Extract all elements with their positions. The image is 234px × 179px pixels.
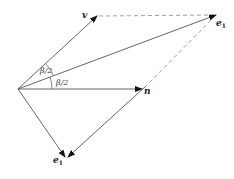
vector-e1-upper: [18, 15, 216, 89]
label-e1-upper: e1: [216, 18, 226, 29]
label-angle-lower: β/2: [55, 78, 68, 87]
angle-arc-lower: [50, 77, 52, 89]
vector-e1-lower: [18, 89, 65, 157]
label-n: n: [144, 86, 151, 96]
label-v: v: [82, 10, 88, 20]
label-e1-lower: e1: [53, 155, 63, 166]
dashed-line-e1-to-n: [146, 15, 216, 86]
connector-to-e1-lower: [68, 86, 146, 157]
vector-diagram: v e1 n e1 β/2 β/2: [0, 0, 234, 179]
label-angle-upper: β/2: [39, 66, 52, 75]
dashed-line-v-to-e1: [99, 15, 214, 16]
